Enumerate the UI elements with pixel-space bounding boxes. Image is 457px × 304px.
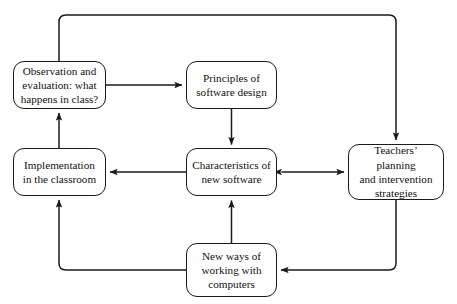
node-characteristics[interactable]: Characteristics of new software [186,148,277,196]
edge-newways-to-implementation [59,200,186,270]
flowchart-diagram: Observation and evaluation: what happens… [0,0,457,304]
node-newways[interactable]: New ways of working with computers [186,243,277,297]
edge-teachers-to-newways [281,200,396,270]
node-principles-label: Principles of software design [196,71,267,100]
node-teachers[interactable]: Teachers’ planning and intervention stra… [348,144,444,200]
node-teachers-label: Teachers’ planning and intervention stra… [354,143,438,200]
node-principles[interactable]: Principles of software design [186,61,277,109]
node-characteristics-label: Characteristics of new software [192,158,271,187]
node-implementation[interactable]: Implementation in the classroom [13,148,106,196]
node-observation[interactable]: Observation and evaluation: what happens… [13,61,106,109]
node-newways-label: New ways of working with computers [202,249,262,292]
node-implementation-label: Implementation in the classroom [23,158,96,187]
node-observation-label: Observation and evaluation: what happens… [21,64,99,107]
